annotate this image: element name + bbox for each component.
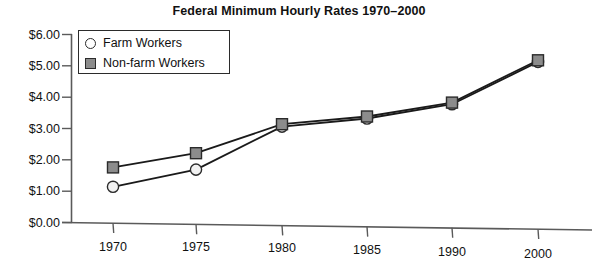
x-axis-tick [196,224,197,234]
data-point-marker [191,148,202,159]
x-axis-line [62,223,592,231]
x-axis-tick [538,229,539,239]
data-point-marker [107,181,118,192]
legend-label: Farm Workers [103,36,182,50]
filled-square-marker-icon [85,58,96,69]
data-point-marker [533,55,544,66]
data-point-marker [277,119,288,130]
legend-entry-non-farm-workers: Non-farm Workers [85,53,229,73]
x-axis-tick [367,227,368,237]
series-line-farm-workers [113,62,538,187]
x-axis-tick [282,225,283,235]
data-point-marker [362,111,373,122]
data-point-marker [447,97,458,108]
data-point-marker [190,164,201,175]
chart-legend: Farm Workers Non-farm Workers [78,30,230,74]
legend-label: Non-farm Workers [103,56,205,70]
x-axis-tick [452,228,453,238]
open-circle-marker-icon [85,38,96,49]
data-point-marker [108,162,119,173]
series-line-non-farm-workers [113,60,538,167]
legend-entry-farm-workers: Farm Workers [85,33,229,53]
x-axis-tick [113,223,114,233]
chart-container: Federal Minimum Hourly Rates 1970–2000 $… [0,0,598,272]
